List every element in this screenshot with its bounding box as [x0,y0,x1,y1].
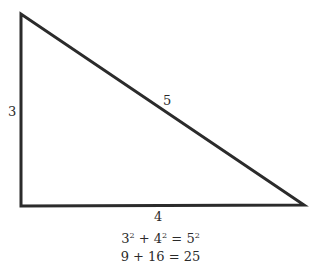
eq-a-exponent: 2 [130,231,135,240]
eq-a: 3 [121,231,129,246]
numeric-equation: 9 + 16 = 25 [2,250,317,263]
eq-plus: + [139,231,150,246]
eq-c: 5 [186,231,194,246]
eq-equals: = [171,231,182,246]
eq-b: 4 [154,231,162,246]
eq-c-exponent: 2 [195,231,200,240]
triangle-outline [21,14,304,206]
horizontal-leg-label: 4 [154,210,162,223]
hypotenuse-label: 5 [163,94,171,107]
vertical-leg-label: 3 [8,105,16,118]
eq-b-exponent: 2 [162,231,167,240]
pythagorean-equation: 32 + 42 = 52 [2,232,317,245]
